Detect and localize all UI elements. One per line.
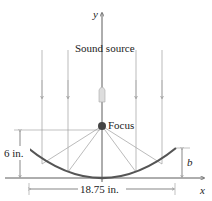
parabolic-dish-diagram: y x Focus Sound source 6 in. b 18.75 in. [0,0,212,201]
height-label: 6 in. [4,147,24,159]
sound-source-label: Sound source [75,42,135,54]
microphone-icon [99,87,105,102]
focus-label: Focus [108,119,134,131]
width-label: 18.75 in. [80,183,119,195]
b-label: b [187,156,193,168]
x-axis-label: x [199,184,205,196]
y-axis-label: y [92,8,98,20]
focus-point [98,122,106,130]
